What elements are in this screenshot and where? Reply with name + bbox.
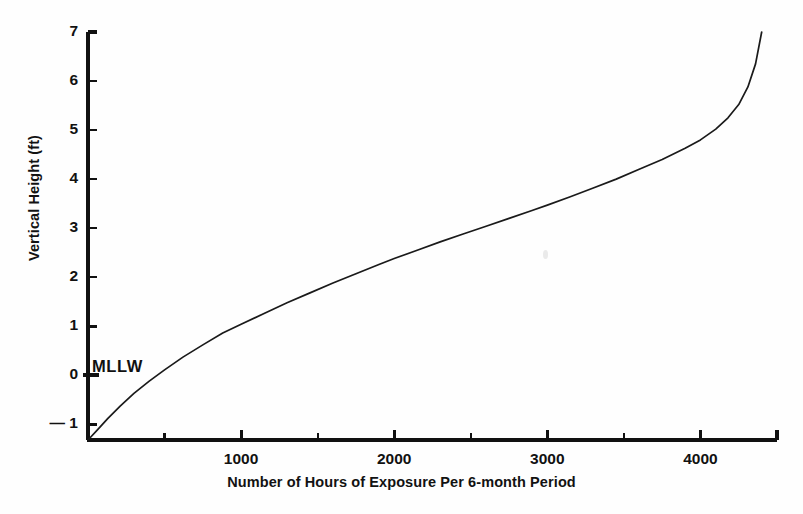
- x-tick-label: 1000: [201, 450, 281, 468]
- x-tick-label: 3000: [507, 450, 587, 468]
- y-tick-label: 4: [38, 169, 78, 187]
- x-tick-label: 4000: [660, 450, 740, 468]
- scan-artifact-speck: [543, 250, 548, 259]
- y-tick-label: 0: [38, 365, 78, 383]
- y-tick-label: — 1: [26, 414, 78, 432]
- y-tick-label: 1: [38, 316, 78, 334]
- mllw-annotation-label: MLLW: [92, 357, 143, 376]
- y-tick-label: 2: [38, 267, 78, 285]
- y-tick-label: 5: [38, 120, 78, 138]
- x-axis-title: Number of Hours of Exposure Per 6-month …: [0, 474, 803, 490]
- y-tick-label: 7: [38, 22, 78, 40]
- x-tick-label: 2000: [354, 450, 434, 468]
- chart-figure: Vertical Height (ft) Number of Hours of …: [0, 0, 803, 514]
- y-tick-label: 3: [38, 218, 78, 236]
- plot-area: [0, 0, 803, 514]
- y-tick-label: 6: [38, 71, 78, 89]
